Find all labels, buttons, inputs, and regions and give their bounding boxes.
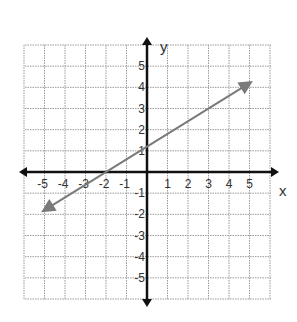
y-tick-label: 5: [138, 59, 145, 73]
y-tick-label: -3: [134, 229, 145, 243]
y-axis-label: y: [160, 38, 168, 55]
x-tick-label: -1: [119, 177, 130, 191]
x-axis-arrow-left-icon: [19, 167, 27, 177]
line-arrow-start-icon: [41, 199, 57, 212]
coordinate-plane: -5-4-3-2-11234554321-1-2-3-4-5 x y: [0, 0, 297, 322]
x-tick-label: 1: [164, 177, 171, 191]
y-tick-label: -2: [134, 207, 145, 221]
x-tick-label: 5: [246, 177, 253, 191]
x-tick-label: 3: [205, 177, 212, 191]
x-tick-label: -4: [58, 177, 69, 191]
y-tick-label: 4: [138, 80, 145, 94]
y-tick-label: 3: [138, 102, 145, 116]
x-tick-label: 4: [226, 177, 233, 191]
y-tick-label: -5: [134, 271, 145, 285]
x-tick-label: -2: [99, 177, 110, 191]
x-tick-label: 2: [185, 177, 192, 191]
x-axis-label: x: [279, 182, 287, 199]
x-axis-arrow-right-icon: [271, 167, 279, 177]
y-axis-arrow-down-icon: [142, 299, 152, 307]
x-tick-label: -5: [37, 177, 48, 191]
y-tick-label: -1: [134, 186, 145, 200]
y-tick-label: 2: [138, 123, 145, 137]
y-axis-arrow-up-icon: [142, 37, 152, 45]
axes: [19, 37, 279, 307]
y-tick-label: -4: [134, 250, 145, 264]
